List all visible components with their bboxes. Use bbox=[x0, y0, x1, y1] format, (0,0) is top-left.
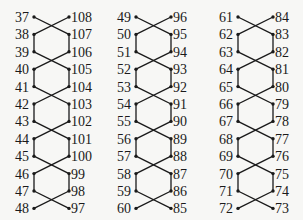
node-dot bbox=[236, 50, 239, 53]
node-dot bbox=[134, 155, 137, 158]
node-dot bbox=[32, 33, 35, 36]
node-label-left: 70 bbox=[219, 167, 233, 182]
node-label-right: 80 bbox=[275, 80, 289, 95]
node-dot bbox=[32, 102, 35, 105]
node-dot bbox=[32, 50, 35, 53]
node-label-right: 104 bbox=[71, 80, 92, 95]
node-label-right: 99 bbox=[71, 167, 85, 182]
node-label-left: 40 bbox=[15, 62, 29, 77]
node-dot bbox=[134, 207, 137, 210]
node-label-right: 81 bbox=[275, 62, 289, 77]
node-label-left: 49 bbox=[117, 10, 131, 25]
node-label-left: 48 bbox=[15, 201, 29, 216]
node-label-right: 88 bbox=[173, 149, 187, 164]
node-label-left: 53 bbox=[117, 80, 131, 95]
node-dot bbox=[236, 15, 239, 18]
node-dot bbox=[134, 102, 137, 105]
node-label-left: 58 bbox=[117, 167, 131, 182]
node-dot bbox=[134, 120, 137, 123]
node-label-left: 41 bbox=[15, 80, 29, 95]
node-label-left: 50 bbox=[117, 27, 131, 42]
node-label-right: 95 bbox=[173, 27, 187, 42]
node-dot bbox=[32, 207, 35, 210]
node-label-right: 86 bbox=[173, 184, 187, 199]
node-label-right: 90 bbox=[173, 114, 187, 129]
node-label-left: 46 bbox=[15, 167, 29, 182]
node-label-right: 78 bbox=[275, 114, 289, 129]
node-label-left: 66 bbox=[219, 97, 233, 112]
node-dot bbox=[134, 137, 137, 140]
node-label-right: 79 bbox=[275, 97, 289, 112]
node-dot bbox=[236, 155, 239, 158]
node-label-left: 38 bbox=[15, 27, 29, 42]
node-label-right: 107 bbox=[71, 27, 92, 42]
node-dot bbox=[32, 85, 35, 88]
node-label-right: 89 bbox=[173, 132, 187, 147]
node-dot bbox=[236, 33, 239, 36]
node-dot bbox=[32, 189, 35, 192]
node-label-left: 62 bbox=[219, 27, 233, 42]
node-label-right: 106 bbox=[71, 45, 92, 60]
node-label-right: 96 bbox=[173, 10, 187, 25]
node-dot bbox=[236, 189, 239, 192]
node-label-left: 54 bbox=[117, 97, 131, 112]
node-label-left: 45 bbox=[15, 149, 29, 164]
node-dot bbox=[134, 68, 137, 71]
node-label-left: 56 bbox=[117, 132, 131, 147]
node-label-right: 75 bbox=[275, 167, 289, 182]
node-label-right: 97 bbox=[71, 201, 85, 216]
node-label-left: 47 bbox=[15, 184, 29, 199]
node-dot bbox=[134, 189, 137, 192]
node-label-left: 52 bbox=[117, 62, 131, 77]
node-label-right: 93 bbox=[173, 62, 187, 77]
node-label-right: 73 bbox=[275, 201, 289, 216]
column-3: 6184628363826481658066796778687769767075… bbox=[219, 10, 289, 216]
node-label-left: 61 bbox=[219, 10, 233, 25]
node-label-right: 94 bbox=[173, 45, 187, 60]
node-dot bbox=[134, 15, 137, 18]
node-label-left: 43 bbox=[15, 114, 29, 129]
node-label-right: 77 bbox=[275, 132, 289, 147]
node-dot bbox=[32, 137, 35, 140]
node-label-left: 71 bbox=[219, 184, 233, 199]
node-label-right: 74 bbox=[275, 184, 289, 199]
node-label-left: 67 bbox=[219, 114, 233, 129]
node-label-right: 103 bbox=[71, 97, 92, 112]
node-label-left: 59 bbox=[117, 184, 131, 199]
node-label-left: 44 bbox=[15, 132, 29, 147]
pairing-diagram: 3710838107391064010541104421034310244101… bbox=[0, 0, 303, 220]
node-label-right: 92 bbox=[173, 80, 187, 95]
node-label-left: 55 bbox=[117, 114, 131, 129]
node-label-right: 108 bbox=[71, 10, 92, 25]
node-label-left: 42 bbox=[15, 97, 29, 112]
column-2: 4996509551945293539254915590568957885887… bbox=[117, 10, 187, 216]
node-label-right: 76 bbox=[275, 149, 289, 164]
node-label-right: 101 bbox=[71, 132, 92, 147]
node-label-left: 65 bbox=[219, 80, 233, 95]
node-dot bbox=[236, 172, 239, 175]
node-label-left: 68 bbox=[219, 132, 233, 147]
node-label-left: 60 bbox=[117, 201, 131, 216]
node-dot bbox=[32, 172, 35, 175]
node-dot bbox=[236, 68, 239, 71]
node-dot bbox=[134, 85, 137, 88]
node-label-right: 82 bbox=[275, 45, 289, 60]
node-dot bbox=[32, 68, 35, 71]
node-label-left: 37 bbox=[15, 10, 29, 25]
node-dot bbox=[134, 33, 137, 36]
node-dot bbox=[236, 85, 239, 88]
node-dot bbox=[236, 102, 239, 105]
node-label-right: 98 bbox=[71, 184, 85, 199]
node-dot bbox=[32, 15, 35, 18]
node-label-left: 64 bbox=[219, 62, 233, 77]
node-label-left: 69 bbox=[219, 149, 233, 164]
node-label-left: 63 bbox=[219, 45, 233, 60]
node-label-left: 57 bbox=[117, 149, 131, 164]
column-1: 3710838107391064010541104421034310244101… bbox=[15, 10, 92, 216]
node-label-right: 85 bbox=[173, 201, 187, 216]
node-label-right: 102 bbox=[71, 114, 92, 129]
node-label-right: 91 bbox=[173, 97, 187, 112]
node-dot bbox=[236, 120, 239, 123]
node-label-left: 51 bbox=[117, 45, 131, 60]
node-label-left: 39 bbox=[15, 45, 29, 60]
